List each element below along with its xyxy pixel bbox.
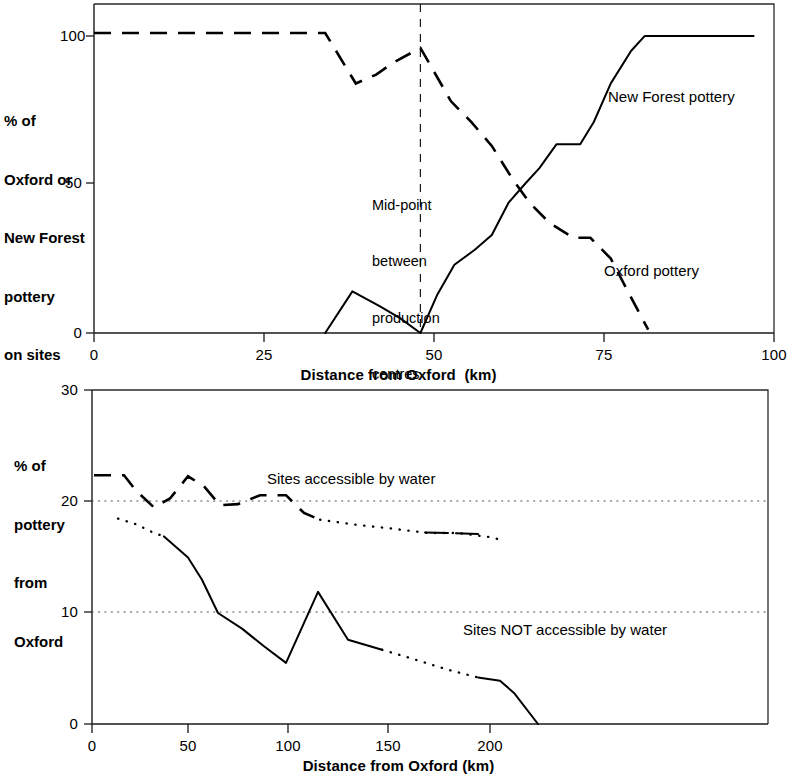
top-yticklabel-100: 100 (60, 27, 82, 45)
bottom-chart-group (84, 390, 768, 733)
midpoint-line-2: between (372, 252, 482, 271)
bottom-xticklabel-100: 100 (270, 737, 306, 755)
bottom-ylabel-line-4: Oxford (14, 632, 90, 652)
bottom-xticklabel-0: 0 (77, 737, 107, 755)
top-ylabel-line-1: % of (4, 111, 92, 131)
top-ylabel-line-4: pottery (4, 287, 92, 307)
bottom-xticklabel-200: 200 (472, 737, 508, 755)
bottom-ylabel-line-1: % of (14, 456, 90, 476)
series-label-sites-accessible-by-water: Sites accessible by water (267, 470, 435, 488)
bottom-ylabel-line-2: pottery (14, 515, 90, 535)
midpoint-line-4: centres (372, 365, 482, 384)
top-xticklabel-25: 25 (249, 346, 279, 364)
top-xticklabel-75: 75 (589, 346, 619, 364)
top-xticklabel-100: 100 (757, 346, 791, 364)
series-water-accent-dash-1 (425, 532, 448, 533)
top-xticklabel-0: 0 (79, 346, 109, 364)
midpoint-line-1: Mid-point (372, 196, 482, 215)
bottom-xticklabel-50: 50 (173, 737, 203, 755)
series-label-new-forest-pottery: New Forest pottery (608, 88, 735, 106)
bottom-chart-x-axis-title: Distance from Oxford (km) (0, 757, 797, 775)
top-ylabel-line-3: New Forest (4, 228, 92, 248)
figure-root: 100 50 0 % of Oxford or New Forest potte… (0, 0, 797, 777)
midpoint-annotation: Mid-point between production centres (372, 158, 482, 422)
bottom-chart-frame (92, 390, 768, 724)
series-not-water-dotted-extrap (382, 650, 478, 678)
midpoint-line-3: production (372, 309, 482, 328)
series-water-accessible-dotted (320, 520, 504, 541)
series-water-accent-dash-2 (456, 533, 478, 534)
bottom-chart-y-axis-label: % of pottery from Oxford (14, 417, 90, 690)
series-not-water-solid-main (164, 536, 382, 663)
series-not-water-solid-tail (478, 678, 538, 725)
top-ylabel-line-2: Oxford or (4, 170, 92, 190)
bottom-yticklabel-0: 0 (54, 715, 78, 733)
bottom-xticklabel-150: 150 (370, 737, 406, 755)
bottom-yticklabel-30: 30 (54, 381, 78, 399)
series-not-water-dotted-lead (118, 519, 164, 537)
bottom-ylabel-line-3: from (14, 573, 90, 593)
series-label-oxford-pottery: Oxford pottery (604, 262, 699, 280)
series-label-sites-not-accessible-by-water: Sites NOT accessible by water (463, 621, 667, 639)
